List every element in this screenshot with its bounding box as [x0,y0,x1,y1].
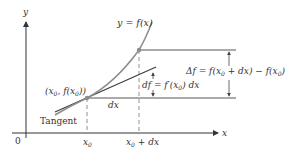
differential-diagram: y x 0 y = f(x) (x0, f(x0)) Tangent dx df… [0,0,298,151]
function-curve [55,22,152,115]
df-label: df = f′(x0) dx [142,80,199,91]
delta-f-label: Δf = f(x0 + dx) − f(x0) [185,66,285,77]
y-axis-label: y [22,7,29,17]
point-x0 [85,96,89,100]
curve-label: y = f(x) [116,17,153,28]
tick-label-x0-plus-dx: x0 + dx [126,137,159,148]
dx-label: dx [108,100,119,110]
tangent-label: Tangent [40,116,77,126]
point-x0-dx [137,48,141,52]
point-label: (x0, f(x0)) [45,86,86,97]
x-axis-label: x [222,128,227,138]
origin-label: 0 [15,136,21,146]
tick-label-x0: x0 [83,137,92,148]
